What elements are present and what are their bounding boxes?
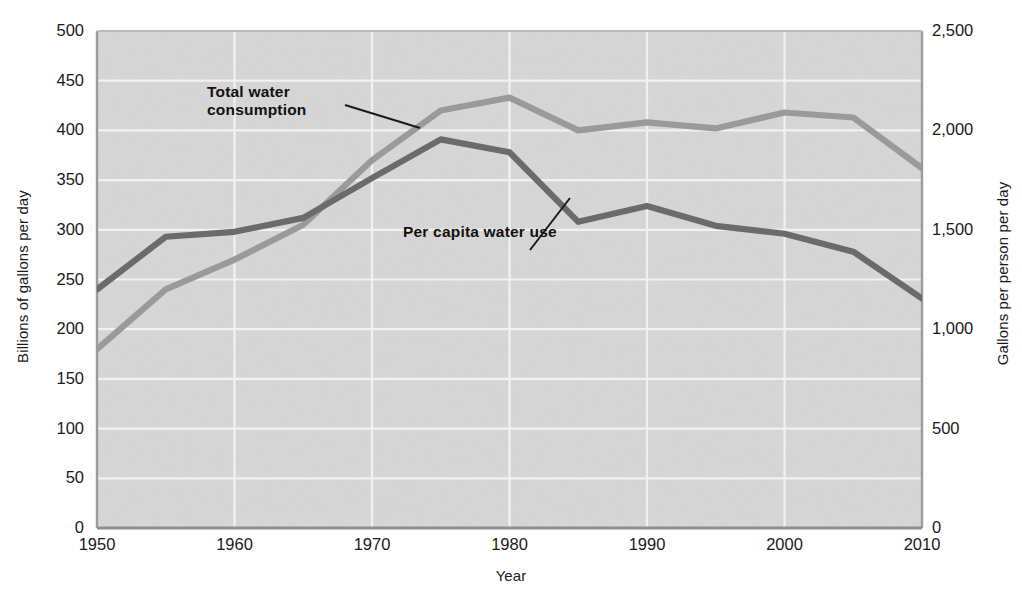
x-axis-tick-label: 1950 <box>52 536 142 553</box>
y-axis-left-tick-label: 400 <box>0 121 84 138</box>
line-chart-plot <box>0 0 1022 600</box>
chart-figure: 050100150200250300350400450500 05001,000… <box>0 0 1022 600</box>
y-axis-right-tick-label: 500 <box>932 420 1002 437</box>
y-axis-left-tick-label: 100 <box>0 420 84 437</box>
y-axis-left-tick-label: 50 <box>0 469 84 486</box>
x-axis-tick-label: 2000 <box>740 536 830 553</box>
y-axis-left-tick-label: 500 <box>0 22 84 39</box>
y-axis-right-tick-label: 2,000 <box>932 121 1002 138</box>
x-axis-tick-label: 1970 <box>327 536 417 553</box>
x-axis-tick-label: 1990 <box>602 536 692 553</box>
y-axis-left-tick-label: 450 <box>0 72 84 89</box>
annotation-per-capita-water-use: Per capita water use <box>403 223 557 241</box>
y-axis-left-tick-label: 0 <box>0 519 84 536</box>
annotation-total-line2: consumption <box>207 101 307 119</box>
x-axis-tick-label: 1960 <box>190 536 280 553</box>
x-axis-tick-label: 2010 <box>877 536 967 553</box>
annotation-total-line1: Total water <box>207 83 307 101</box>
y-axis-right-tick-label: 2,500 <box>932 22 1002 39</box>
x-axis-tick-label: 1980 <box>465 536 555 553</box>
y-axis-right-tick-label: 0 <box>932 519 1002 536</box>
x-axis-title: Year <box>0 567 1022 584</box>
y-axis-right-title: Gallons per person per day <box>994 134 1011 414</box>
y-axis-left-title: Billions of gallons per day <box>14 137 31 417</box>
annotation-capita-line1: Per capita water use <box>403 223 557 241</box>
y-axis-right-tick-label: 1,500 <box>932 221 1002 238</box>
y-axis-right-tick-label: 1,000 <box>932 320 1002 337</box>
annotation-total-water-consumption: Total water consumption <box>207 83 307 120</box>
